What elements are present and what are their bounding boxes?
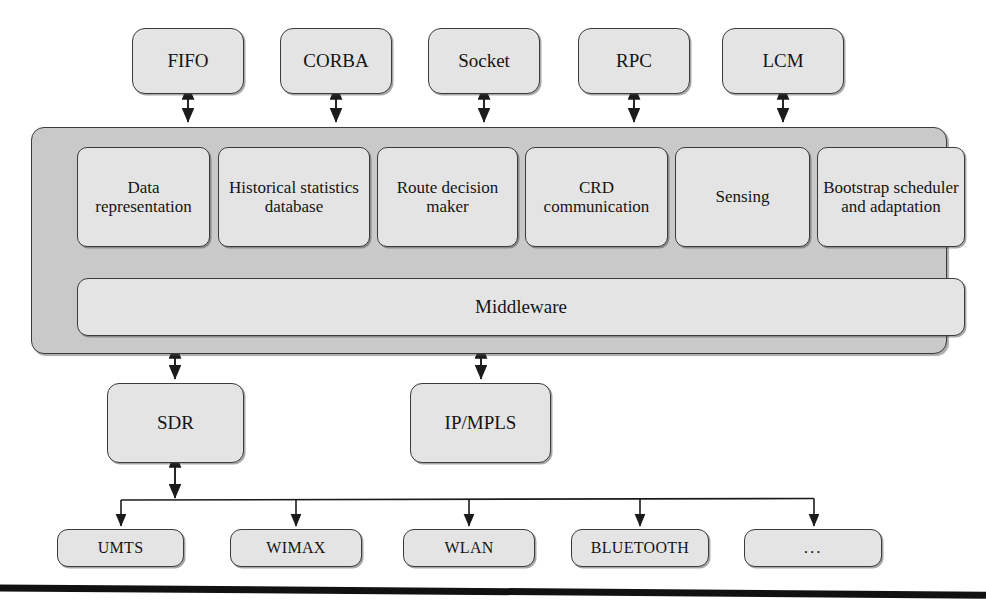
proto-box-rpc[interactable]: RPC — [578, 28, 690, 94]
node-label: RPC — [612, 50, 656, 72]
page-rule — [0, 584, 986, 598]
middleware-label: Middleware — [471, 296, 571, 318]
comp-box-sensing[interactable]: Sensing — [675, 147, 810, 247]
comp-box-crd-communication[interactable]: CRD communication — [525, 147, 668, 247]
access-box-wimax[interactable]: WIMAX — [230, 529, 362, 567]
protocol-connectors — [188, 99, 783, 122]
node-label: IP/MPLS — [441, 412, 521, 434]
comp-box-data-representation[interactable]: Data representation — [77, 147, 210, 247]
node-label: Historical statistics database — [219, 178, 369, 217]
node-label: Route decision maker — [378, 178, 517, 217]
node-label: Bootstrap scheduler and adaptation — [818, 178, 964, 217]
access-box-wlan[interactable]: WLAN — [403, 529, 535, 567]
node-label: Socket — [454, 50, 514, 72]
proto-box-corba[interactable]: CORBA — [280, 28, 392, 94]
middleware-box[interactable]: Middleware — [77, 278, 965, 336]
access-box-bluetooth[interactable]: BLUETOOTH — [571, 529, 709, 567]
comp-box-route-decision-maker[interactable]: Route decision maker — [377, 147, 518, 247]
node-label: CORBA — [299, 50, 372, 72]
bus-horizontal — [121, 499, 814, 501]
proto-box-socket[interactable]: Socket — [428, 28, 540, 94]
node-label: CRD communication — [526, 178, 667, 217]
node-label: UMTS — [94, 539, 148, 557]
proto-box-lcm[interactable]: LCM — [722, 28, 844, 94]
node-label: FIFO — [163, 50, 212, 72]
node-label: Sensing — [712, 187, 774, 206]
access-bus — [121, 499, 814, 527]
node-label: LCM — [758, 50, 807, 72]
transport-box-sdr[interactable]: SDR — [107, 383, 244, 463]
cognitive-engine-panel: Middleware Data representationHistorical… — [31, 127, 947, 354]
node-label: BLUETOOTH — [587, 539, 693, 557]
comp-box-historical-statistics-database[interactable]: Historical statistics database — [218, 147, 370, 247]
transport-box-ip-mpls[interactable]: IP/MPLS — [410, 383, 551, 463]
proto-box-fifo[interactable]: FIFO — [132, 28, 244, 94]
access-box-umts[interactable]: UMTS — [57, 529, 184, 567]
access-box-more[interactable]: ... — [744, 529, 882, 567]
node-label: WIMAX — [262, 539, 329, 557]
node-label: Data representation — [78, 178, 209, 217]
node-label: WLAN — [440, 539, 497, 557]
node-label: SDR — [153, 412, 198, 434]
comp-box-bootstrap-scheduler-and-adaptation[interactable]: Bootstrap scheduler and adaptation — [817, 147, 965, 247]
node-label: ... — [800, 538, 827, 557]
